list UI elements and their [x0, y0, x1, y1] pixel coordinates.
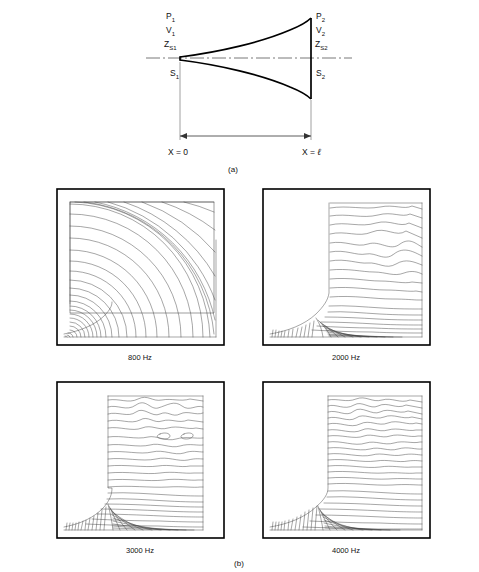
label-pressure-1: P1: [166, 11, 176, 23]
horn-upper-profile: [180, 18, 311, 57]
label-pressure-2: P2: [316, 11, 326, 23]
arrowhead-left: [180, 133, 187, 139]
figure-root: P1 V1 ZS1 S1 P2 V2 ZS2 S2 X = 0 X = ℓ (a…: [0, 0, 479, 572]
panel-a: P1 V1 ZS1 S1 P2 V2 ZS2 S2 X = 0 X = ℓ (a…: [146, 11, 352, 174]
field-bounds-800: [70, 202, 214, 313]
plot-frame-800: [57, 189, 224, 345]
caption-panel-b: (b): [234, 559, 244, 568]
closed-contour-loop-a: [157, 433, 170, 439]
horn-lower-profile: [180, 60, 311, 99]
label-velocity-2: V2: [316, 25, 326, 37]
plot-3000: 3000 Hz: [57, 382, 224, 555]
plot-2000: 2000 Hz: [263, 189, 430, 362]
plot-4000: 4000 Hz: [263, 382, 430, 555]
plot-label-2000: 2000 Hz: [332, 353, 360, 362]
axis-label-x-length: X = ℓ: [302, 147, 321, 157]
label-velocity-1: V1: [166, 25, 176, 37]
axis-label-x-zero: X = 0: [168, 147, 188, 157]
plot-label-800: 800 Hz: [128, 353, 152, 362]
label-area-2: S2: [316, 68, 326, 80]
arrowhead-right: [304, 133, 311, 139]
label-area-1: S1: [170, 68, 180, 80]
label-impedance-1: ZS1: [164, 39, 177, 51]
plot-label-4000: 4000 Hz: [332, 546, 360, 555]
plot-800: 800 Hz: [57, 189, 224, 362]
label-impedance-2: ZS2: [315, 39, 328, 51]
caption-panel-a: (a): [228, 165, 238, 174]
plot-frame-2000: [263, 189, 430, 345]
plot-label-3000: 3000 Hz: [126, 546, 154, 555]
figure-svg: P1 V1 ZS1 S1 P2 V2 ZS2 S2 X = 0 X = ℓ (a…: [0, 0, 479, 572]
closed-contour-loop-b: [181, 433, 193, 439]
